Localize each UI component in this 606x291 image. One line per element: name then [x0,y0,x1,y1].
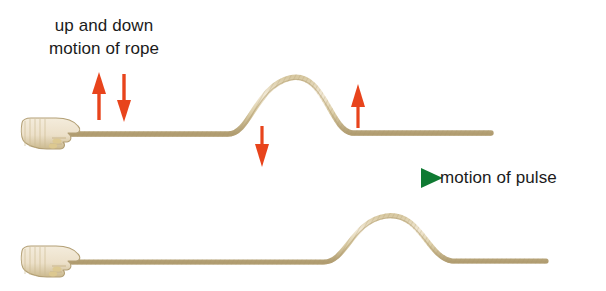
motion-of-pulse-label: motion of pulse [440,166,557,189]
down-arrow-icon [255,126,269,167]
bottom-rope-group [62,216,546,264]
bottom-rope-path [62,216,546,262]
bottom-rope-shade [62,218,546,264]
up-and-down-motion-label-line1: up and down [55,16,153,35]
up-arrow-icon [351,84,365,128]
down-arrow-icon [117,74,131,122]
top-hand-icon [21,118,79,149]
wave-pulse-diagram: up and down motion of rope motion of pul… [0,0,606,291]
up-arrow-icon [92,72,106,120]
bottom-hand-icon [21,246,79,277]
up-and-down-motion-label-line2: motion of rope [49,37,159,60]
bottom-rope-texture [62,216,546,262]
up-and-down-motion-label: up and down motion of rope [49,14,159,60]
